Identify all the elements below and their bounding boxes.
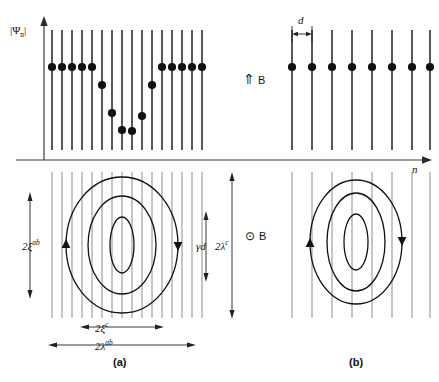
x-axis-label: n [412, 163, 418, 175]
d-spacing-measure [292, 26, 312, 42]
panel-b-vortex-plot [292, 172, 430, 318]
panel-b-vortex-ellipses [310, 180, 402, 304]
field-parallel-icon: ⇑B [243, 71, 265, 87]
panel-b-layer-lines [292, 30, 430, 150]
lambda-ab-label: 2λab [95, 338, 113, 352]
gamma-d-label: γd [196, 240, 206, 252]
xi-ab-label: 2ξab [22, 238, 40, 252]
panel-a-top-plot [48, 30, 206, 150]
panel-b-top-plot [288, 26, 434, 150]
xi-c-measure [80, 325, 164, 330]
y-axis-label: |Ψn| [10, 24, 26, 39]
lambda-c-label: 2λc [215, 238, 229, 252]
panel-a-layer-lines [52, 30, 202, 150]
lambda-c-measure [230, 172, 235, 319]
field-out-of-page-icon: ⊙B [245, 229, 266, 243]
axes [16, 16, 432, 164]
panel-b-data-points [288, 63, 434, 71]
panel-label-b: (b) [349, 356, 363, 368]
vortex-figure [0, 0, 439, 382]
xi-c-label: 2ξc [95, 320, 109, 334]
d-spacing-label: d [298, 14, 304, 26]
panel-label-a: (a) [113, 356, 126, 368]
lambda-ab-measure [48, 343, 196, 348]
panel-b-circulation-arrows [306, 237, 407, 247]
panel-a-vortex-plot [28, 172, 235, 348]
